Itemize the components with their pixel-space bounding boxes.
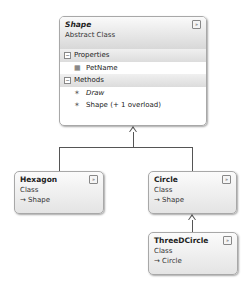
- class-name: Hexagon: [20, 175, 98, 185]
- minus-icon[interactable]: −: [64, 77, 71, 84]
- inheritance-line-threedcircle: [192, 219, 193, 232]
- class-box-shape[interactable]: Shape Abstract Class » −Properties ▦PetN…: [59, 16, 207, 126]
- class-kind: Class: [154, 246, 232, 256]
- inheritance-arrow-inner: [189, 216, 195, 220]
- member-name: PetName: [86, 64, 118, 72]
- class-kind: Class: [154, 185, 231, 195]
- expand-toggle-icon[interactable]: »: [222, 175, 231, 184]
- section-label: Methods: [74, 76, 104, 84]
- class-kind: Class: [20, 185, 98, 195]
- class-kind: Abstract Class: [65, 30, 201, 40]
- method-icon: ✶: [74, 99, 82, 111]
- expand-toggle-icon[interactable]: »: [89, 175, 98, 184]
- method-icon: ✶: [74, 87, 82, 99]
- class-name: Shape: [65, 20, 201, 30]
- base-class: → Circle: [154, 256, 232, 266]
- inheritance-line-hexagon: [59, 147, 60, 171]
- class-box-circle[interactable]: Circle Class → Shape »: [148, 171, 237, 214]
- property-icon: ▦: [74, 62, 82, 74]
- minus-icon[interactable]: −: [64, 52, 71, 59]
- base-class: → Shape: [154, 195, 231, 205]
- class-header: Shape Abstract Class »: [60, 17, 206, 49]
- class-header: ThreeDCircle Class → Circle »: [149, 233, 237, 268]
- inheritance-line-shape-stem: [133, 132, 134, 148]
- section-methods[interactable]: −Methods: [60, 74, 206, 87]
- member-name: Shape (+ 1 overload): [86, 101, 161, 109]
- inheritance-line-horizontal: [59, 147, 193, 148]
- inheritance-arrow-inner: [130, 128, 136, 132]
- base-class: → Shape: [20, 195, 98, 205]
- class-box-threedcircle[interactable]: ThreeDCircle Class → Circle »: [148, 232, 238, 275]
- class-name: Circle: [154, 175, 231, 185]
- section-label: Properties: [74, 51, 109, 59]
- member-draw[interactable]: ✶Draw: [60, 87, 206, 99]
- class-header: Hexagon Class → Shape »: [15, 172, 103, 207]
- member-petname[interactable]: ▦PetName: [60, 62, 206, 74]
- expand-toggle-icon[interactable]: »: [223, 236, 232, 245]
- section-properties[interactable]: −Properties: [60, 49, 206, 62]
- class-header: Circle Class → Shape »: [149, 172, 236, 207]
- class-box-hexagon[interactable]: Hexagon Class → Shape »: [14, 171, 104, 214]
- collapse-toggle-icon[interactable]: »: [192, 20, 201, 29]
- member-shape-constructor[interactable]: ✶Shape (+ 1 overload): [60, 99, 206, 111]
- inheritance-line-circle: [192, 147, 193, 171]
- member-name: Draw: [86, 89, 104, 97]
- class-name: ThreeDCircle: [154, 236, 232, 246]
